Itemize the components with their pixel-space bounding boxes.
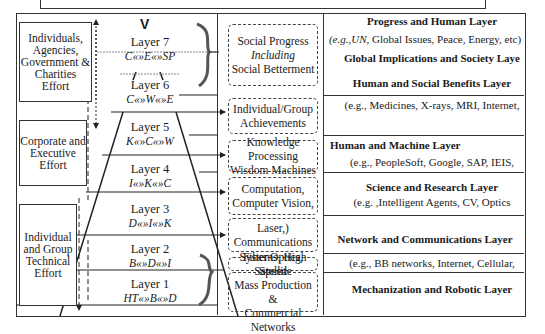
right-title-science: Science and Research Layer	[340, 181, 524, 194]
box-line: Social Progress	[237, 34, 308, 48]
layer-name: Layer 7	[95, 35, 205, 49]
effort-label: Corporate and Executive Effort	[20, 135, 86, 171]
layer-name: Layer 5	[95, 120, 205, 134]
layer-5: Layer 5K«»C«»W	[95, 120, 205, 148]
right-title-progress: Progress and Human Layer	[340, 15, 524, 28]
effort-label: Individuals, Agencies, Government & Char…	[20, 32, 91, 92]
box-line: Computation,	[242, 182, 305, 196]
box-line: Individual/Group	[233, 102, 313, 116]
right-title-human-social: Human and Social Benefits Layer	[340, 77, 524, 90]
effort-label: Individual and Group Technical Effort	[20, 231, 76, 279]
box-communications: Laser,) Communications	[228, 218, 318, 252]
effort-box-technical: Individual and Group Technical Effort	[19, 204, 77, 306]
box-knowledge: Knowledge Processing Wisdom Machines	[228, 140, 318, 172]
box-line: Mass Production &	[229, 278, 317, 306]
layer-name: Layer 3	[95, 202, 205, 216]
row-divider	[323, 135, 524, 136]
layer-3: Layer 3D«»I«»K	[95, 202, 205, 230]
box-line: Achievements	[240, 116, 306, 130]
right-example-progress: (e.g.,UN, Global Issues, Peace, Energy, …	[326, 33, 524, 46]
box-line: Communications	[234, 235, 313, 249]
box-achievements: Individual/Group Achievements	[228, 98, 318, 134]
layer-name: Layer 1	[95, 277, 205, 291]
layer-6: Layer 6C«»W«»E	[95, 78, 205, 106]
box-line: Commercial Networks	[229, 306, 317, 334]
top-marker: V	[140, 16, 149, 32]
layer-formula: C«»E«»SP	[95, 49, 205, 63]
example-prefix: (e.g.,UN,	[329, 33, 369, 45]
layer-name: Layer 4	[95, 162, 205, 176]
row-divider	[323, 95, 524, 96]
layer-formula: D«»I«»K	[95, 216, 205, 230]
box-systems: Systems, High Speed Mass Production & Co…	[228, 272, 318, 312]
layer-formula: I«»K«»C	[95, 176, 205, 190]
effort-box-corporate: Corporate and Executive Effort	[19, 120, 87, 186]
box-line: Computer Vision,	[232, 196, 314, 210]
right-title-human-machine: Human and Machine Layer	[330, 139, 514, 152]
layer-2: Layer 2B«»D«»I	[95, 242, 205, 270]
right-title-global: Global Implications and Society Laye	[340, 52, 524, 65]
right-title-network: Network and Communications Layer	[326, 233, 524, 246]
right-title-mechanization: Mechanization and Robotic Layer	[340, 283, 524, 296]
box-line: Laser,)	[257, 221, 289, 235]
right-example-human-social: (e.g., Medicines, X-rays, MRI, Internet,	[340, 99, 524, 112]
box-line: Systems, High Speed	[229, 250, 317, 278]
box-line: Wisdom Machines	[230, 163, 316, 177]
effort-box-government: Individuals, Agencies, Government & Char…	[19, 22, 92, 102]
layer-formula: B«»D«»I	[95, 256, 205, 270]
layer-1: Layer 1HT«»B«»D	[95, 277, 205, 305]
right-example-science: (e.g. ,Intelligent Agents, CV, Optics	[340, 196, 524, 209]
right-example-human-machine: (e.g., PeopleSoft, Google, SAP, IEIS,	[340, 156, 524, 169]
box-computation: Computation, Computer Vision,	[228, 177, 318, 215]
right-example-network: (e.g., BB networks, Internet, Cellular,	[340, 257, 524, 270]
box-line: Knowledge Processing	[229, 135, 317, 163]
box-line: Including	[251, 48, 295, 62]
layer-formula: HT«»B«»D	[95, 291, 205, 305]
layer-4: Layer 4I«»K«»C	[95, 162, 205, 190]
layer-formula: C«»W«»E	[95, 92, 205, 106]
layer-name: Layer 6	[95, 78, 205, 92]
row-divider	[323, 172, 524, 173]
box-line: Social Betterment	[232, 62, 315, 76]
box-social-progress: Social Progress Including Social Betterm…	[228, 24, 318, 86]
layer-7: Layer 7C«»E«»SP	[95, 35, 205, 63]
row-divider	[323, 272, 524, 273]
example-text: Global Issues, Peace, Energy, etc)	[369, 33, 521, 45]
layer-formula: K«»C«»W	[95, 134, 205, 148]
layer-name: Layer 2	[95, 242, 205, 256]
row-divider	[323, 253, 524, 254]
row-divider	[323, 215, 524, 216]
